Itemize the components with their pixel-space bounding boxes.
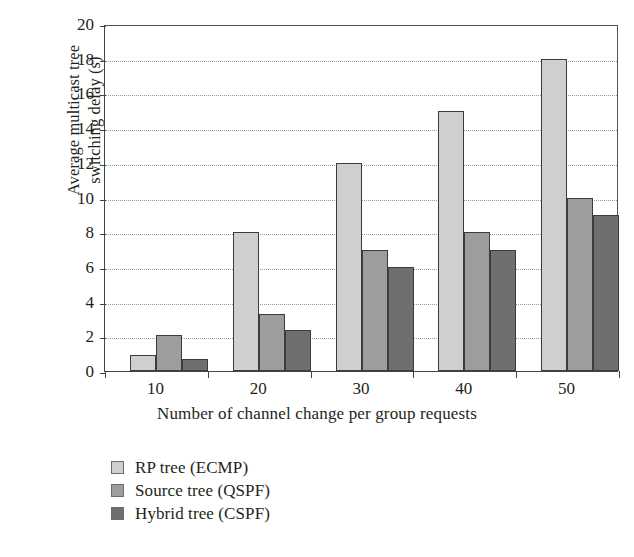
x-tick-label: 40 xyxy=(429,379,499,399)
y-tick-mark xyxy=(100,26,106,27)
x-tick-label: 50 xyxy=(532,379,602,399)
y-tick-mark xyxy=(100,304,106,305)
gridline xyxy=(105,61,617,62)
gridline xyxy=(105,95,617,96)
y-tick-label: 14 xyxy=(52,119,94,139)
legend-swatch-icon xyxy=(111,484,124,497)
bar xyxy=(336,163,362,371)
y-tick-mark xyxy=(100,165,106,166)
y-tick-mark xyxy=(100,269,106,270)
y-tick-label: 2 xyxy=(52,327,94,347)
x-axis-title: Number of channel change per group reque… xyxy=(0,404,634,424)
plot-area xyxy=(104,25,618,372)
bar xyxy=(285,330,311,371)
bar xyxy=(388,267,414,371)
y-tick-mark xyxy=(100,234,106,235)
y-tick-label: 6 xyxy=(52,258,94,278)
legend-label: Source tree (QSPF) xyxy=(135,481,270,501)
legend-item[interactable]: RP tree (ECMP) xyxy=(111,456,270,479)
y-tick-mark xyxy=(100,61,106,62)
x-tick-label: 30 xyxy=(326,379,396,399)
y-tick-label: 10 xyxy=(52,188,94,208)
legend-swatch-icon xyxy=(111,507,124,520)
y-tick-mark xyxy=(100,95,106,96)
x-tick-mark xyxy=(311,371,312,378)
bar xyxy=(541,59,567,371)
legend-label: RP tree (ECMP) xyxy=(135,458,248,478)
x-tick-mark xyxy=(413,371,414,378)
bar xyxy=(567,198,593,372)
y-tick-mark xyxy=(100,200,106,201)
bar xyxy=(233,232,259,371)
chart-legend: RP tree (ECMP)Source tree (QSPF)Hybrid t… xyxy=(111,456,270,525)
legend-label: Hybrid tree (CSPF) xyxy=(135,504,270,524)
y-tick-label: 4 xyxy=(52,292,94,312)
x-tick-label: 20 xyxy=(223,379,293,399)
x-tick-mark xyxy=(208,371,209,378)
y-tick-label: 8 xyxy=(52,223,94,243)
y-tick-label: 12 xyxy=(52,154,94,174)
y-tick-label: 16 xyxy=(52,84,94,104)
bar xyxy=(182,359,208,371)
bar xyxy=(593,215,619,371)
y-tick-label: 20 xyxy=(52,15,94,35)
legend-item[interactable]: Source tree (QSPF) xyxy=(111,479,270,502)
legend-swatch-icon xyxy=(111,461,124,474)
chart-figure: Average multicast tree switching delay (… xyxy=(0,0,634,557)
y-tick-mark xyxy=(100,338,106,339)
bar xyxy=(259,314,285,371)
bar xyxy=(490,250,516,371)
x-tick-mark xyxy=(516,371,517,378)
y-tick-mark xyxy=(100,130,106,131)
y-tick-label: 18 xyxy=(52,49,94,69)
bar xyxy=(156,335,182,371)
bar xyxy=(130,355,156,371)
x-tick-mark xyxy=(105,371,106,378)
x-tick-mark xyxy=(619,371,620,378)
bar xyxy=(362,250,388,371)
bar xyxy=(464,232,490,371)
legend-item[interactable]: Hybrid tree (CSPF) xyxy=(111,502,270,525)
x-tick-label: 10 xyxy=(120,379,190,399)
y-tick-label: 0 xyxy=(52,362,94,382)
bar xyxy=(438,111,464,371)
gridline xyxy=(105,130,617,131)
